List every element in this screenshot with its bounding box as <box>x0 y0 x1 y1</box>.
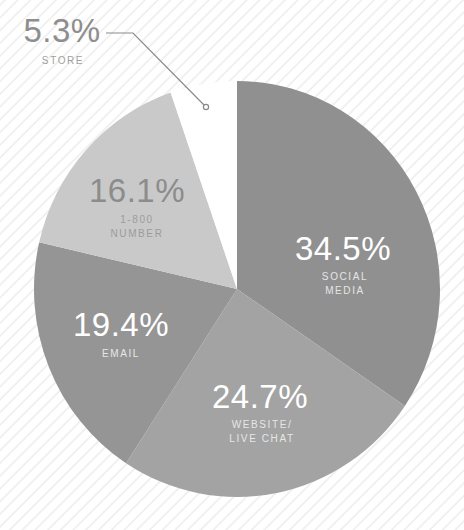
social-media-label: SOCIAL MEDIA <box>322 270 368 298</box>
store-percent: 5.3% <box>23 12 100 50</box>
email-percent: 19.4% <box>73 306 169 344</box>
email-label: EMAIL <box>102 347 140 361</box>
website-percent: 24.7% <box>212 378 308 416</box>
number-1800-label: 1-800 NUMBER <box>111 213 164 241</box>
pie-chart <box>0 0 464 530</box>
social-media-percent: 34.5% <box>295 230 391 268</box>
website-label: WEBSITE/ LIVE CHAT <box>229 418 294 446</box>
store-label: STORE <box>42 54 84 68</box>
number-1800-percent: 16.1% <box>89 172 185 210</box>
